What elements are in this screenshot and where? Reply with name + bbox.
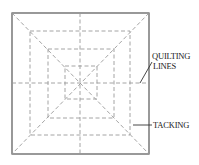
quilting-diagram: QUILTING LINES TACKING xyxy=(0,0,199,165)
quilting-label-line1: QUILTING xyxy=(152,51,190,61)
quilting-leader-line xyxy=(140,62,152,83)
quilting-label-line2: LINES xyxy=(153,61,177,71)
tacking-label: TACKING xyxy=(153,120,189,130)
